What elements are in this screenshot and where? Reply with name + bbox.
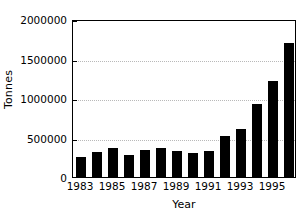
y-axis-tick-label: 2000000 xyxy=(20,14,67,26)
bar-series xyxy=(73,21,295,177)
x-axis-tick-label: 1995 xyxy=(259,180,286,192)
y-axis-tick-label: 1500000 xyxy=(20,54,67,66)
bar-chart-figure: Tonnes 0500000100000015000002000000 1983… xyxy=(0,0,305,222)
bar xyxy=(236,129,246,177)
bar xyxy=(284,43,294,177)
bar xyxy=(140,150,150,177)
x-axis-tick-label: 1989 xyxy=(163,180,190,192)
bar xyxy=(92,152,102,177)
bar xyxy=(156,148,166,177)
bar xyxy=(220,136,230,177)
x-axis-tick-labels: 1983198519871989199119931995 xyxy=(72,180,296,196)
bar xyxy=(76,157,86,177)
y-axis-tick-label: 1000000 xyxy=(20,93,67,105)
bar xyxy=(204,151,214,177)
bar xyxy=(188,153,198,177)
bar xyxy=(268,81,278,177)
x-axis-title: Year xyxy=(72,198,296,211)
plot-area xyxy=(72,20,296,178)
x-axis-tick-label: 1987 xyxy=(131,180,158,192)
x-axis-tick-label: 1985 xyxy=(99,180,126,192)
bar xyxy=(252,104,262,177)
x-axis-tick-label: 1991 xyxy=(195,180,222,192)
y-axis-tick-labels: 0500000100000015000002000000 xyxy=(14,0,70,222)
y-axis-tick-label: 500000 xyxy=(27,133,67,145)
bar xyxy=(108,148,118,177)
x-axis-tick-label: 1993 xyxy=(227,180,254,192)
x-axis-tick-label: 1983 xyxy=(67,180,94,192)
bar xyxy=(172,151,182,177)
bar xyxy=(124,155,134,177)
